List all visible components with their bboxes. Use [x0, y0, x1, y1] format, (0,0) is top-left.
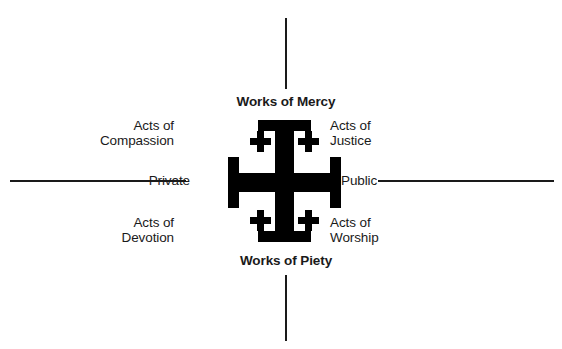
- axis-label-works-of-mercy: Works of Mercy: [216, 94, 356, 109]
- axis-line-bottom: [285, 275, 287, 341]
- axis-label-private: Private: [80, 173, 190, 188]
- quadrant-label-acts-of-compassion: Acts of Compassion: [44, 118, 174, 148]
- jerusalem-cross-svg: [225, 113, 349, 249]
- diagram-canvas: Works of Mercy Works of Piety Private Pu…: [0, 0, 562, 349]
- axis-line-top: [285, 18, 287, 89]
- axis-label-public: Public: [341, 173, 451, 188]
- axis-label-works-of-piety: Works of Piety: [216, 253, 356, 268]
- quadrant-label-acts-of-justice: Acts of Justice: [330, 118, 460, 148]
- quadrant-label-acts-of-devotion: Acts of Devotion: [44, 215, 174, 245]
- jerusalem-cross-icon: [225, 113, 349, 249]
- quadrant-label-acts-of-worship: Acts of Worship: [330, 215, 460, 245]
